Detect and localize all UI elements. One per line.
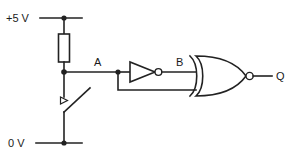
circuit-diagram: +5 V 0 V A B Q: [0, 0, 292, 161]
not-gate-triangle: [130, 62, 155, 82]
switch-blade[interactable]: [64, 88, 90, 112]
label-node-b: B: [176, 56, 183, 68]
resistor-body: [59, 34, 70, 62]
nor-gate-group: [190, 56, 272, 96]
gnd-rail-group: [36, 140, 82, 145]
schematic-canvas: +5 V 0 V A B Q: [0, 0, 292, 161]
nor-gate-body: [196, 56, 246, 96]
nor-gate-bubble-icon: [246, 72, 253, 79]
not-gate-group: [130, 62, 196, 82]
switch-actuator-arrow-icon: [61, 97, 68, 104]
vcc-rail-group: [40, 15, 82, 20]
node-a-group: [61, 69, 118, 75]
gnd-junction-dot: [61, 140, 66, 145]
switch-group[interactable]: [61, 72, 91, 143]
label-supply-ground: 0 V: [8, 137, 25, 149]
pull-up-resistor-group: [59, 18, 70, 72]
label-node-a: A: [94, 56, 102, 68]
label-supply-positive: +5 V: [6, 12, 30, 24]
label-output-q: Q: [276, 70, 285, 82]
not-gate-bubble-icon: [155, 69, 162, 76]
